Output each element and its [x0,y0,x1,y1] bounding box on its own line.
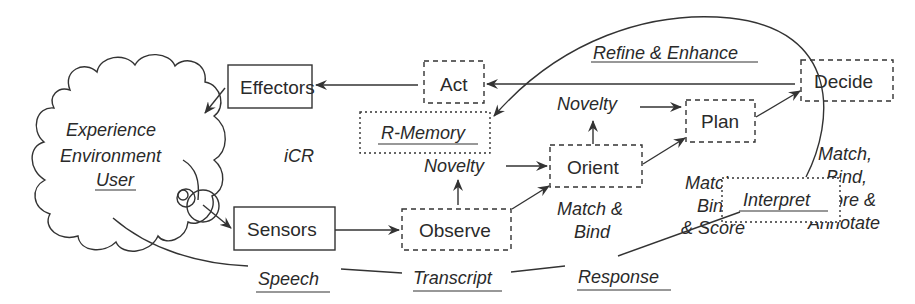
icr-label: iCR [284,146,314,166]
edge-speech-transcript [341,269,402,273]
ear-curve [183,160,198,200]
r-memory-node: R-Memory [360,112,490,153]
plan-node: Plan [686,100,755,142]
interpret-node: Interpret [722,178,840,222]
observe-label: Observe [419,220,491,241]
orient-match-line1: Match & [557,199,623,219]
transcript-label: Transcript [413,268,493,288]
cloud-label-environment: Environment [60,146,162,166]
edge-orient-plan [643,138,685,164]
orient-label: Orient [567,157,619,178]
effectors-label: Effectors [240,77,315,98]
edge-transcript-response [511,266,565,272]
edge-interpret-rmemory [494,17,824,177]
observe-node: Observe [402,209,511,250]
decide-label: Decide [814,71,873,92]
decide-match-line1: Match, [818,144,872,164]
ear-circle-large [187,190,219,222]
sensors-node: Sensors [234,207,335,250]
speech-label: Speech [258,269,319,289]
interpret-label: Interpret [743,190,811,210]
refine-enhance-label: Refine & Enhance [593,43,738,63]
cloud-environment: Experience Environment User [32,55,225,252]
act-label: Act [440,74,468,95]
plan-label: Plan [701,111,739,132]
r-memory-label: R-Memory [381,123,466,143]
edge-effectors-cloud [205,88,225,113]
edge-plan-decide [756,91,800,117]
icr-diagram: Experience Environment User iCR Effector… [0,0,915,304]
cloud-label-user: User [96,170,135,190]
response-label: Response [578,267,659,287]
novelty-lower-label: Novelty [424,156,485,176]
effectors-node: Effectors [228,65,315,108]
orient-match-line2: Bind [574,222,611,242]
orient-node: Orient [550,145,642,187]
edge-observe-orient [512,186,549,209]
act-node: Act [424,61,484,103]
novelty-upper-label: Novelty [557,94,618,114]
sensors-label: Sensors [247,219,317,240]
cloud-label-experience: Experience [66,120,156,140]
